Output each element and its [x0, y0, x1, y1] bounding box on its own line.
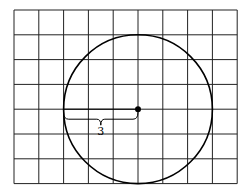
radius-label: 3: [97, 125, 104, 138]
center-point: [135, 106, 141, 112]
grid-circle-diagram: 3: [0, 0, 248, 192]
radius-brace: [64, 112, 138, 125]
